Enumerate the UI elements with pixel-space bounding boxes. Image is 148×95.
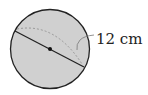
- center-point: [48, 47, 52, 51]
- diameter-label: 12 cm: [96, 30, 142, 48]
